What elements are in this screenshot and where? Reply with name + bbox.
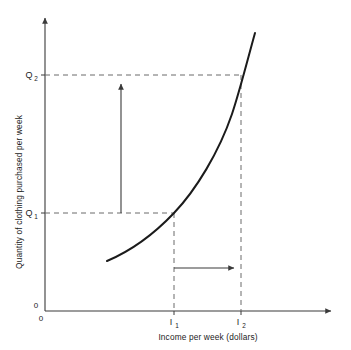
axis-group — [45, 18, 331, 311]
y-axis-title: Quantity of clothing purchased per week — [14, 114, 24, 269]
y-tick-label-q1: Q — [25, 208, 32, 218]
axis-titles-group: Quantity of clothing purchased per week … — [14, 114, 258, 342]
x-tick-label-i1-subscript: 1 — [175, 322, 179, 329]
x-axis-title: Income per week (dollars) — [158, 332, 257, 342]
guide-lines-group — [45, 75, 241, 311]
x-tick-label-i1: I — [170, 317, 173, 327]
y-tick-label-q1-subscript: 1 — [34, 213, 38, 220]
origin-labels-group: 0 0 — [34, 301, 44, 323]
x-tick-label-i2-subscript: 2 — [242, 322, 246, 329]
annotation-group — [121, 84, 234, 268]
engel-curve-path — [107, 33, 255, 261]
curve-group — [107, 33, 255, 261]
engel-curve-chart: Q 2 Q 1 I 1 I 2 0 0 Quantity of clothing… — [0, 0, 351, 350]
tick-labels-group: Q 2 Q 1 I 1 I 2 — [25, 70, 246, 329]
tick-marks-group — [41, 75, 241, 315]
x-tick-label-i2: I — [237, 317, 240, 327]
origin-label-y: 0 — [34, 301, 39, 310]
figure-container: Q 2 Q 1 I 1 I 2 0 0 Quantity of clothing… — [0, 0, 351, 350]
y-tick-label-q2-subscript: 2 — [34, 75, 38, 82]
origin-label-x: 0 — [39, 314, 44, 323]
y-tick-label-q2: Q — [25, 70, 32, 80]
